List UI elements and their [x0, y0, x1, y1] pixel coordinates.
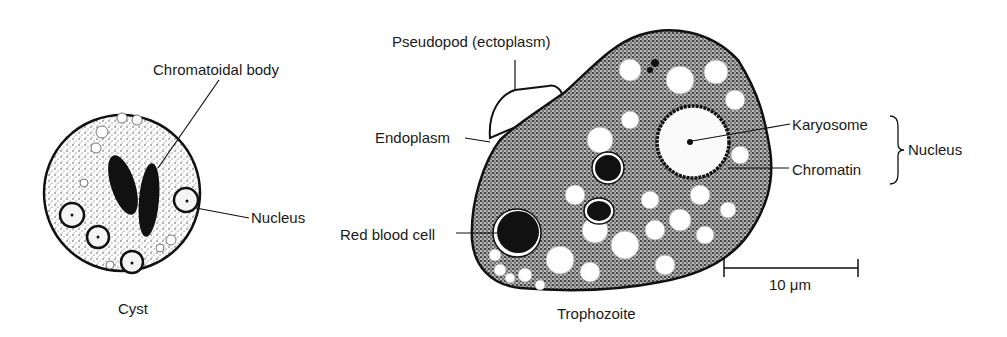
scale-bar: 10 μm — [724, 259, 858, 293]
scale-bar-label: 10 μm — [769, 276, 811, 293]
label-red-blood-cell: Red blood cell — [340, 226, 435, 243]
label-chromatoidal-body: Chromatoidal body — [153, 61, 279, 78]
cyst: Chromatoidal body Nucleus Cyst — [44, 61, 305, 317]
label-endoplasm: Endoplasm — [375, 129, 450, 146]
nucleus-brace — [890, 116, 904, 184]
label-cyst-nucleus: Nucleus — [251, 209, 305, 226]
leader-cyst-nucleus — [196, 208, 249, 218]
caption-trophozoite: Trophozoite — [557, 305, 636, 322]
leader-endoplasm — [465, 138, 490, 142]
label-karyosome: Karyosome — [792, 116, 868, 133]
trophozoite: Pseudopod (ectoplasm) Endoplasm Red bloo… — [340, 30, 962, 322]
label-chromatin: Chromatin — [792, 161, 861, 178]
entamoeba-diagram: Chromatoidal body Nucleus Cyst — [0, 0, 1007, 337]
karyosome — [687, 139, 693, 145]
label-pseudopod: Pseudopod (ectoplasm) — [392, 33, 550, 50]
caption-cyst: Cyst — [118, 300, 149, 317]
label-nucleus-group: Nucleus — [908, 141, 962, 158]
